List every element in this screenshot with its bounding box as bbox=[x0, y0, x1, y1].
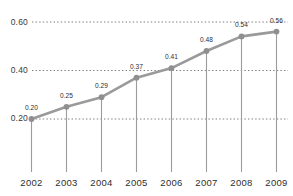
chart-plot-area bbox=[0, 0, 292, 196]
x-axis-tick-label: 2003 bbox=[50, 177, 84, 188]
data-label: 0.20 bbox=[20, 104, 44, 111]
x-axis-tick-label: 2002 bbox=[15, 177, 49, 188]
data-point-2002 bbox=[29, 116, 35, 122]
data-label: 0.37 bbox=[125, 63, 149, 70]
data-label: 0.41 bbox=[160, 53, 184, 60]
x-axis-tick-label: 2007 bbox=[190, 177, 224, 188]
x-axis-tick-label: 2005 bbox=[120, 177, 154, 188]
data-label: 0.25 bbox=[55, 92, 79, 99]
data-label: 0.48 bbox=[195, 36, 219, 43]
data-point-2008 bbox=[239, 34, 245, 40]
data-label: 0.56 bbox=[265, 17, 289, 24]
x-axis-tick-label: 2006 bbox=[155, 177, 189, 188]
line-chart: 0.60 0.40 0.20 0.20 0.25 0.29 0.37 0.41 … bbox=[0, 0, 292, 196]
x-axis-tick-label: 2004 bbox=[85, 177, 119, 188]
data-point-2009 bbox=[274, 29, 280, 35]
data-label: 0.54 bbox=[230, 21, 254, 28]
y-axis-tick-label: 0.40 bbox=[2, 65, 28, 75]
data-point-2004 bbox=[99, 94, 105, 100]
drop-lines bbox=[32, 32, 277, 172]
data-label: 0.29 bbox=[90, 82, 114, 89]
data-point-2005 bbox=[134, 75, 140, 81]
data-point-2006 bbox=[169, 65, 175, 71]
data-point-2003 bbox=[64, 104, 70, 110]
y-axis-tick-label: 0.20 bbox=[2, 113, 28, 123]
x-axis-tick-label: 2009 bbox=[260, 177, 293, 188]
data-point-2007 bbox=[204, 48, 210, 54]
y-axis-tick-label: 0.60 bbox=[2, 17, 28, 27]
x-axis-tick-label: 2008 bbox=[225, 177, 259, 188]
